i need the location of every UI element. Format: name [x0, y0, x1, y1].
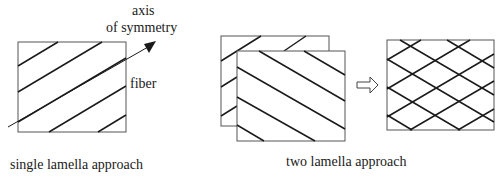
two-lamella-caption: two lamella approach: [286, 155, 407, 169]
fiber-label: fiber: [130, 77, 156, 91]
hollow-arrow-icon: [357, 77, 378, 93]
axis-label: axis: [132, 4, 155, 18]
arrowhead-icon: [144, 41, 156, 53]
crossed-lamella: [387, 40, 494, 130]
front-lamella: [237, 51, 345, 141]
axis-of-symmetry-label: of symmetry: [106, 21, 177, 35]
single-lamella-caption: single lamella approach: [10, 158, 143, 172]
